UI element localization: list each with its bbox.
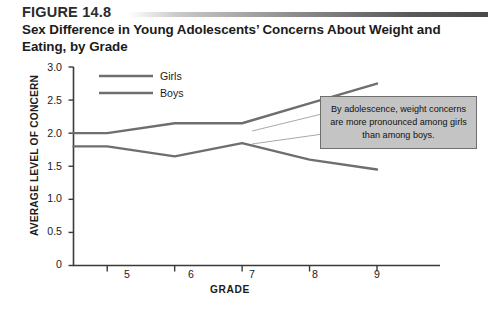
annotation-callout: By adolescence, weight concerns are more… (320, 96, 477, 149)
figure-container: FIGURE 14.8 Sex Difference in Young Adol… (0, 0, 499, 320)
annotation-text: By adolescence, weight concerns are more… (321, 103, 476, 141)
plot-canvas (0, 0, 499, 320)
x-axis-ticks (107, 266, 377, 272)
